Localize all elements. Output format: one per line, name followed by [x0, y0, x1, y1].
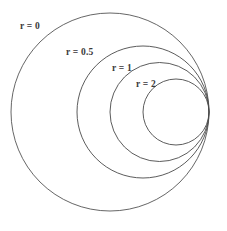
- curve-label-3: r = 2: [136, 80, 156, 90]
- curve-label-0: r = 0: [20, 22, 40, 32]
- curve-label-1: r = 0.5: [66, 48, 93, 58]
- resistance-circles-plot: [0, 0, 227, 231]
- resistance-circle-r-1: [110, 63, 209, 162]
- curve-label-2: r = 1: [112, 64, 132, 74]
- smith-chart-figure: r = 0r = 0.5r = 1r = 2: [0, 0, 227, 231]
- constant-resistance-circles: [11, 13, 209, 211]
